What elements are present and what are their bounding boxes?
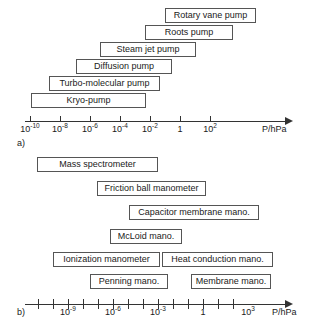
axis-a-tick: [30, 116, 31, 121]
band-mcloid-mano: McLoid mano.: [110, 229, 182, 244]
tick-exp: -6: [115, 305, 121, 312]
band-rotary-vane-pump: Rotary vane pump: [165, 8, 256, 23]
tick-exp: -9: [70, 305, 76, 312]
band-diffusion-pump: Diffusion pump: [76, 59, 172, 74]
axis-b-tick: [53, 299, 54, 309]
tick-base: 10: [241, 307, 251, 317]
axis-b-tick: [173, 299, 174, 309]
tick-base: 10: [20, 124, 30, 134]
band-penning-mano: Penning mano.: [90, 274, 168, 289]
axis-a-tick-label: 102: [203, 124, 217, 134]
tick-base: 10: [112, 124, 122, 134]
band-steam-jet-pump: Steam jet pump: [100, 42, 196, 57]
axis-a-tick: [210, 116, 211, 121]
band-membrane-mano: Membrane mano.: [191, 274, 271, 289]
tick-base: 10: [142, 124, 152, 134]
panel-b-label: b): [17, 307, 25, 317]
axis-b-tick: [38, 299, 39, 309]
axis-b: 10-9 10-6 10-3 1 103 P/hPa b): [0, 296, 321, 326]
axis-b-tick: [233, 299, 234, 309]
axis-b-tick: [143, 299, 144, 309]
tick-base: 1: [177, 124, 182, 134]
axis-a-title: P/hPa: [262, 124, 287, 134]
axis-a-tick: [90, 116, 91, 121]
band-heat-conduction-mano: Heat conduction mano.: [162, 252, 273, 267]
band-friction-ball-manometer: Friction ball manometer: [97, 181, 206, 196]
axis-a-tick: [60, 116, 61, 121]
axis-b-tick: [83, 299, 84, 309]
axis-a-tick: [150, 116, 151, 121]
tick-exp: -8: [62, 122, 68, 129]
tick-base: 10: [52, 124, 62, 134]
axis-a-tick-label: 1: [177, 124, 182, 134]
axis-b-tick: [128, 299, 129, 309]
band-roots-pump: Roots pump: [145, 25, 233, 40]
tick-base: 10: [150, 307, 160, 317]
vacuum-pressure-range-figure: Rotary vane pump Roots pump Steam jet pu…: [0, 0, 321, 332]
tick-exp: -4: [122, 122, 128, 129]
axis-b-tick-label: 10-9: [60, 307, 76, 317]
tick-exp: -2: [152, 122, 158, 129]
axis-a-tick-label: 10-6: [82, 124, 98, 134]
axis-a-tick-label: 10-8: [52, 124, 68, 134]
axis-b-tick-label: 1: [200, 307, 205, 317]
band-ionization-manometer: Ionization manometer: [53, 252, 160, 267]
tick-exp: 3: [251, 305, 255, 312]
band-turbo-molecular-pump: Turbo-molecular pump: [49, 76, 160, 91]
axis-b-tick-label: 10-6: [105, 307, 121, 317]
axis-a-tick: [180, 116, 181, 121]
axis-b-tick: [218, 299, 219, 309]
tick-base: 10: [82, 124, 92, 134]
tick-base: 10: [60, 307, 70, 317]
axis-a-tick-label: 10-4: [112, 124, 128, 134]
axis-b-tick-label: 103: [241, 307, 255, 317]
axis-a-tick-label: 10-2: [142, 124, 158, 134]
axis-b-tick: [98, 299, 99, 309]
tick-base: 10: [203, 124, 213, 134]
axis-b-tick: [188, 299, 189, 309]
band-capacitor-membrane-mano: Capacitor membrane mano.: [129, 205, 259, 220]
axis-b-line: [25, 304, 287, 305]
panel-a-label: a): [17, 138, 25, 148]
axis-a: 10-10 10-8 10-6 10-4 10-2 1 102 P/hPa: [0, 113, 321, 143]
band-kryo-pump: Kryo-pump: [31, 93, 146, 108]
tick-exp: -6: [92, 122, 98, 129]
axis-b-tick-label: 10-3: [150, 307, 166, 317]
tick-exp: -10: [30, 122, 39, 129]
tick-base: 1: [200, 307, 205, 317]
axis-a-tick-label: 10-10: [20, 124, 39, 134]
axis-a-tick: [120, 116, 121, 121]
axis-b-title: P/hPa: [272, 307, 297, 317]
tick-exp: 2: [213, 122, 217, 129]
tick-base: 10: [105, 307, 115, 317]
band-mass-spectrometer: Mass spectrometer: [37, 157, 158, 172]
tick-exp: -3: [160, 305, 166, 312]
